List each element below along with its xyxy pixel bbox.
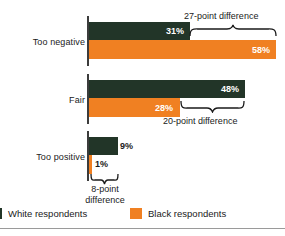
bar-value-white-too-positive: 9% <box>120 142 133 151</box>
bar-black-too-positive <box>89 155 92 174</box>
annotation-too-positive-line1: 8-point <box>77 184 133 195</box>
bar-value-black-too-positive: 1% <box>95 160 108 169</box>
bar-black-too-negative <box>89 40 276 59</box>
footer-divider <box>0 228 285 229</box>
legend-label-black: Black respondents <box>148 208 226 219</box>
bar-value-black-fair: 28% <box>155 104 173 113</box>
legend-swatch-white-icon <box>0 208 2 219</box>
bar-value-white-fair: 48% <box>221 85 239 94</box>
chart-container: Too negative 31% 58% 27-point difference… <box>0 0 285 236</box>
bar-value-black-too-negative: 58% <box>252 46 270 55</box>
category-label-too-negative: Too negative <box>0 37 85 47</box>
annotation-fair: 20-point difference <box>163 116 237 127</box>
legend-label-white: White respondents <box>8 208 87 219</box>
bar-white-too-positive <box>89 137 118 155</box>
category-label-fair: Fair <box>0 95 85 105</box>
brace-too-negative <box>189 24 277 36</box>
legend-item-white: White respondents <box>0 208 87 219</box>
annotation-too-negative: 27-point difference <box>184 11 258 22</box>
annotation-too-positive-line2: difference <box>77 195 133 206</box>
legend-item-black: Black respondents <box>130 208 226 219</box>
brace-fair <box>180 101 245 113</box>
bar-value-white-too-negative: 31% <box>166 27 184 36</box>
legend-swatch-black-icon <box>130 208 142 219</box>
category-label-too-positive: Too positive <box>0 152 85 162</box>
